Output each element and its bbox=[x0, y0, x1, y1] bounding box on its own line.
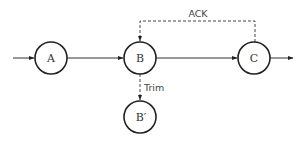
trim-label: Trim bbox=[143, 82, 164, 93]
node-b-prime-label: B′ bbox=[136, 111, 147, 124]
flow-diagram: ACK Trim A B C B′ bbox=[0, 0, 306, 144]
node-b-label: B bbox=[136, 52, 144, 65]
node-b-prime: B′ bbox=[124, 101, 156, 133]
node-c-label: C bbox=[250, 52, 258, 65]
node-c: C bbox=[238, 42, 270, 74]
edge-ack-c-to-b bbox=[140, 21, 255, 42]
ack-label: ACK bbox=[188, 8, 208, 19]
node-a: A bbox=[35, 42, 67, 74]
node-b: B bbox=[124, 42, 156, 74]
node-a-label: A bbox=[46, 52, 56, 65]
